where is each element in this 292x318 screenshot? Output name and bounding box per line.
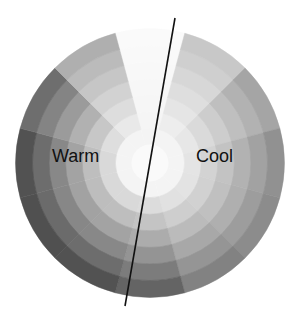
wheel-segment bbox=[132, 212, 167, 231]
warm-label: Warm bbox=[52, 147, 99, 165]
wheel-segment bbox=[128, 78, 172, 97]
wheel-segment bbox=[98, 150, 116, 177]
wheel-segment bbox=[137, 111, 164, 129]
color-wheel bbox=[0, 0, 292, 318]
cool-label: Cool bbox=[196, 147, 233, 165]
wheel-segment bbox=[124, 62, 176, 82]
wheel-segment bbox=[128, 228, 172, 247]
wheel-segment bbox=[124, 244, 176, 264]
wheel-segment bbox=[231, 137, 251, 189]
wheel-segment bbox=[132, 95, 167, 114]
